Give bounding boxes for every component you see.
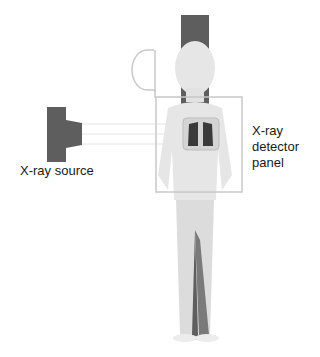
detector-label-line2: detector: [252, 139, 312, 155]
xray-source-icon: [47, 107, 82, 162]
xray-diagram: X-ray source X-ray detector panel: [0, 0, 320, 357]
detector-label-line3: panel: [252, 155, 312, 171]
head-holder-icon: [132, 50, 155, 98]
detector-label-line1: X-ray: [252, 123, 312, 139]
detector-panel-label: X-ray detector panel: [252, 123, 312, 171]
xray-source-label: X-ray source: [20, 163, 94, 179]
